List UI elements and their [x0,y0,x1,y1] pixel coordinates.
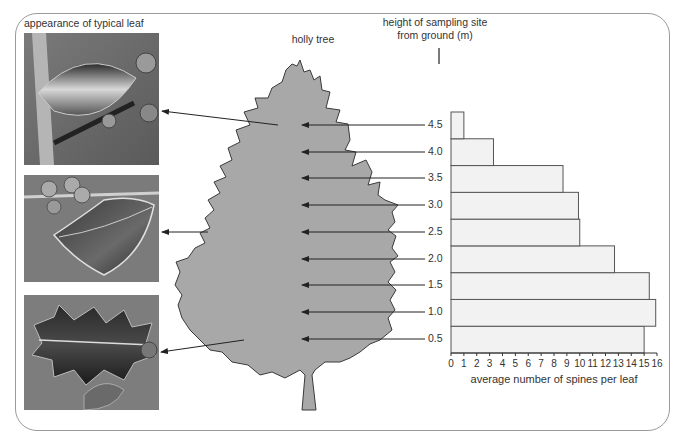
bar-height-2.0 [451,246,615,273]
x-axis-label: average number of spines per leaf [451,373,657,385]
x-axis [451,353,657,356]
height-label-0.5: 0.5 [428,332,443,344]
x-tick-10: 10 [574,358,585,369]
x-tick-13: 13 [613,358,624,369]
x-tick-15: 15 [639,358,650,369]
height-label-3.0: 3.0 [428,198,443,210]
x-tick-6: 6 [525,358,531,369]
height-label-2.0: 2.0 [428,252,443,264]
bar-height-0.5 [451,326,644,353]
bar-height-1.0 [451,299,656,326]
height-label-3.5: 3.5 [428,171,443,183]
holly-tree-silhouette [175,60,398,410]
height-label-4.0: 4.0 [428,145,443,157]
x-tick-11: 11 [587,358,597,369]
height-label-2.5: 2.5 [428,225,443,237]
x-tick-1: 1 [461,358,467,369]
x-tick-5: 5 [513,358,519,369]
bar-height-1.5 [451,273,649,300]
x-tick-16: 16 [651,358,662,369]
height-label-1.5: 1.5 [428,278,443,290]
bar-height-4.5 [451,112,464,139]
x-tick-8: 8 [551,358,557,369]
x-tick-0: 0 [448,358,454,369]
bar-height-4.0 [451,139,493,166]
bar-height-3.5 [451,166,563,193]
bar-height-3.0 [451,192,578,219]
x-tick-7: 7 [538,358,544,369]
x-tick-2: 2 [474,358,480,369]
spines-bar-chart [451,112,656,353]
x-tick-4: 4 [500,358,506,369]
x-tick-3: 3 [487,358,493,369]
height-label-4.5: 4.5 [428,118,443,130]
x-tick-12: 12 [600,358,611,369]
height-label-1.0: 1.0 [428,305,443,317]
bar-height-2.5 [451,219,580,246]
x-tick-9: 9 [564,358,570,369]
x-tick-14: 14 [626,358,637,369]
